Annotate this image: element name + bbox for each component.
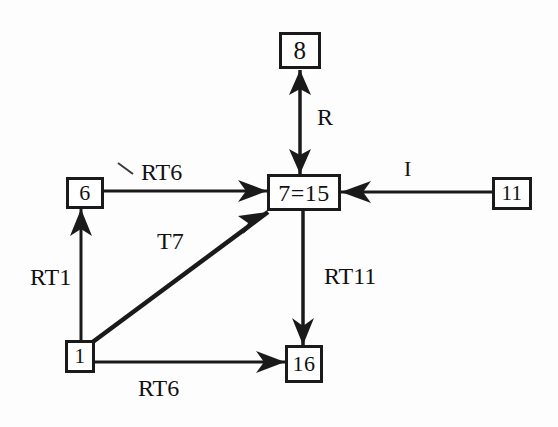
node-6-label: 6 [79, 182, 91, 204]
node-7-15[interactable]: 7=15 [267, 174, 341, 211]
node-16[interactable]: 16 [285, 345, 323, 383]
edge-i [341, 181, 492, 203]
edge-rt1 [70, 209, 92, 340]
node-8-label: 8 [294, 38, 307, 63]
node-11-label: 11 [501, 183, 522, 204]
edge-rt11 [292, 211, 314, 345]
node-6[interactable]: 6 [66, 177, 104, 209]
edge-label-r: R [317, 105, 333, 129]
edge-label-rt6-bottom: RT6 [138, 376, 179, 400]
edge-label-rt6-top: RT6 [141, 160, 182, 184]
edge-label-rt1: RT1 [30, 265, 71, 289]
edge-label-i: I [404, 158, 411, 180]
node-16-label: 16 [293, 353, 316, 375]
node-1-label: 1 [75, 346, 86, 367]
edge-label-rt11: RT11 [324, 264, 376, 288]
edge-rt6-top [104, 163, 267, 202]
node-7-15-label: 7=15 [278, 181, 330, 205]
node-11[interactable]: 11 [492, 177, 532, 210]
edge-rt6-bottom [95, 351, 285, 373]
edge-label-t7: T7 [157, 229, 184, 253]
stray-tick-mark [118, 163, 133, 174]
node-1[interactable]: 1 [65, 340, 95, 373]
edge-r [289, 70, 311, 174]
diagram-canvas: 8 6 7=15 11 1 16 R RT6 I T7 RT1 RT11 RT6 [0, 0, 558, 427]
node-8[interactable]: 8 [279, 32, 321, 69]
